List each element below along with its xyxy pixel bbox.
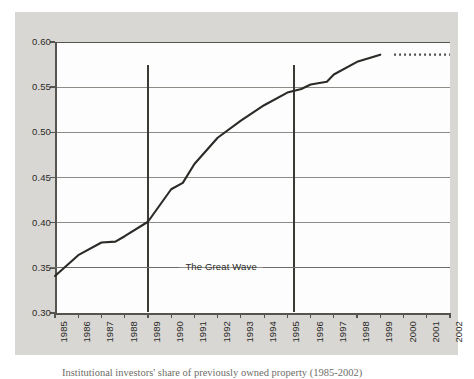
x-axis-label-1991: 1991 xyxy=(198,321,208,343)
x-tick-1985 xyxy=(54,313,55,318)
y-axis-labels-group: 0.300.350.400.450.500.550.60 xyxy=(15,12,51,355)
x-tick-1990 xyxy=(171,313,172,318)
x-tick-1999 xyxy=(380,313,381,318)
x-axis-label-1987: 1987 xyxy=(105,321,115,343)
chart-panel: 0.300.350.400.450.500.550.60 19851986198… xyxy=(15,12,458,355)
x-axis-label-1989: 1989 xyxy=(152,321,162,343)
x-tick-2001 xyxy=(426,313,427,318)
x-tick-1996 xyxy=(310,313,311,318)
x-axis-label-1994: 1994 xyxy=(268,321,278,343)
x-axis-line xyxy=(55,313,451,315)
y-axis-line xyxy=(55,42,57,314)
x-tick-1993 xyxy=(240,313,241,318)
x-axis-label-1997: 1997 xyxy=(338,321,348,343)
x-axis-label-1990: 1990 xyxy=(175,321,185,343)
x-axis-label-1992: 1992 xyxy=(222,321,232,343)
x-axis-label-2001: 2001 xyxy=(431,321,441,343)
x-axis-label-1988: 1988 xyxy=(129,321,139,343)
x-axis-label-1999: 1999 xyxy=(384,321,394,343)
x-tick-1986 xyxy=(78,313,79,318)
x-axis-label-1998: 1998 xyxy=(361,321,371,343)
x-axis-label-1985: 1985 xyxy=(59,321,69,343)
x-axis-label-2000: 2000 xyxy=(408,321,418,343)
gridline-0.60 xyxy=(55,42,450,43)
x-tick-1994 xyxy=(264,313,265,318)
y-axis-label-0.30: 0.30 xyxy=(21,308,51,318)
y-axis-label-0.40: 0.40 xyxy=(21,218,51,228)
y-axis-label-0.50: 0.50 xyxy=(21,127,51,137)
event-marker-wave-end xyxy=(293,65,295,312)
annotation-rule-left xyxy=(51,267,179,268)
gridline-0.55 xyxy=(55,87,450,88)
x-tick-1989 xyxy=(147,313,148,318)
x-tick-2000 xyxy=(403,313,404,318)
gridline-0.40 xyxy=(55,222,450,223)
event-marker-wave-start xyxy=(147,65,149,313)
x-tick-1988 xyxy=(124,313,125,318)
y-axis-label-0.60: 0.60 xyxy=(21,37,51,47)
x-axis-label-1996: 1996 xyxy=(315,321,325,343)
x-axis-label-1995: 1995 xyxy=(291,321,301,343)
figure-caption: Institutional investors' share of previo… xyxy=(62,366,422,379)
figure-container: 0.300.350.400.450.500.550.60 19851986198… xyxy=(0,0,474,379)
x-tick-1997 xyxy=(333,313,334,318)
x-tick-1998 xyxy=(356,313,357,318)
y-axis-label-0.35: 0.35 xyxy=(21,263,51,273)
x-axis-label-1993: 1993 xyxy=(245,321,255,343)
y-axis-label-0.45: 0.45 xyxy=(21,173,51,183)
y-axis-label-0.55: 0.55 xyxy=(21,82,51,92)
x-tick-1992 xyxy=(217,313,218,318)
x-tick-2002 xyxy=(449,313,450,318)
x-axis-label-1986: 1986 xyxy=(82,321,92,343)
x-tick-1987 xyxy=(101,313,102,318)
x-axis-label-2002: 2002 xyxy=(454,321,464,343)
gridline-0.45 xyxy=(55,177,450,178)
x-tick-1991 xyxy=(194,313,195,318)
x-tick-1995 xyxy=(287,313,288,318)
annotation-label-the-great-wave: The Great Wave xyxy=(183,262,259,272)
gridline-0.50 xyxy=(55,132,450,133)
annotation-rule-right xyxy=(263,267,450,268)
